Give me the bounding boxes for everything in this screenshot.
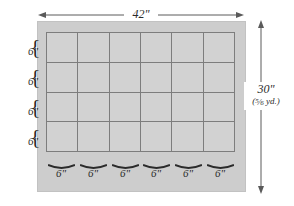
grid-cell	[110, 93, 141, 123]
grid-cell	[47, 122, 78, 152]
grid-cell	[110, 63, 141, 93]
grid-cell	[204, 122, 235, 152]
height-dimension-arrow: 30" (5⁄6 yd.)	[248, 20, 274, 194]
grid-cell	[110, 33, 141, 63]
column-label-2: 6"	[77, 167, 109, 179]
grid-cell	[204, 63, 235, 93]
grid-cell	[141, 33, 172, 63]
grid-cell	[172, 93, 203, 123]
grid-cell	[172, 63, 203, 93]
grid-cell	[47, 33, 78, 63]
height-dimension-label: 30"	[244, 83, 288, 96]
column-label-1: 6"	[45, 167, 77, 179]
cut-grid	[46, 32, 235, 152]
grid-cell	[172, 33, 203, 63]
column-label-4: 6"	[140, 167, 172, 179]
grid-cell	[141, 63, 172, 93]
grid-cell	[78, 93, 109, 123]
row-brace-1: {	[30, 36, 37, 58]
row-brace-4: {	[30, 126, 37, 148]
grid-cell	[110, 122, 141, 152]
row-brace-2: {	[30, 66, 37, 88]
sublabel-unit: yd.)	[264, 96, 280, 106]
grid-cell	[172, 122, 203, 152]
height-dimension-sublabel: (5⁄6 yd.)	[244, 96, 288, 109]
grid-cell	[47, 63, 78, 93]
column-brace-6	[207, 157, 234, 164]
column-brace-3	[112, 157, 139, 164]
width-dimension-label: 42"	[124, 7, 158, 21]
fabric-cutting-diagram: 42" 30" (5⁄6 yd.) 6" { 6" { 6" { 6" {	[0, 0, 294, 206]
grid-cell	[78, 63, 109, 93]
column-label-6: 6"	[204, 167, 236, 179]
grid-cell	[47, 93, 78, 123]
column-brace-2	[80, 157, 107, 164]
grid-cell	[141, 93, 172, 123]
row-brace-3: {	[30, 96, 37, 118]
grid-cell	[204, 93, 235, 123]
column-brace-4	[143, 157, 170, 164]
fraction-denominator: 6	[260, 99, 264, 107]
height-dimension-label-group: 30" (5⁄6 yd.)	[244, 82, 288, 110]
column-brace-5	[175, 157, 202, 164]
grid-cell	[141, 122, 172, 152]
column-label-5: 6"	[172, 167, 204, 179]
column-brace-1	[48, 157, 75, 164]
grid-cell	[78, 33, 109, 63]
width-dimension-arrow: 42"	[38, 7, 244, 23]
grid-cell	[204, 33, 235, 63]
fraction-five-sixths: 5⁄6	[255, 96, 264, 109]
grid-cell	[78, 122, 109, 152]
column-label-3: 6"	[109, 167, 141, 179]
